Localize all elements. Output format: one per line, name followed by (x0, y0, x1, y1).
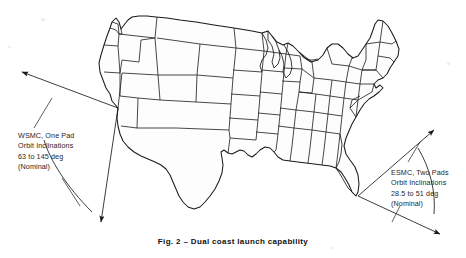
esmc-line-1: ESMC, Two Pads (391, 168, 449, 178)
wsmc-line-3: 63 to 145 deg (18, 152, 74, 162)
us-map-with-launch-wedges (0, 0, 466, 258)
figure-caption: Fig. 2 – Dual coast launch capability (0, 237, 466, 246)
esmc-annotation: ESMC, Two Pads Orbit Inclinations 28.5 t… (391, 168, 449, 210)
wsmc-line-2: Orbit Inclinations (18, 141, 74, 151)
wsmc-line-1: WSMC, One Pad (18, 131, 74, 141)
esmc-line-4: (Nominal) (391, 199, 449, 209)
wsmc-annotation: WSMC, One Pad Orbit Inclinations 63 to 1… (18, 131, 74, 173)
wsmc-wedge-lower-ray (101, 108, 118, 222)
esmc-line-3: 28.5 to 51 deg (391, 189, 449, 199)
figure-dual-coast-launch-capability: WSMC, One Pad Orbit Inclinations 63 to 1… (0, 0, 466, 258)
map-land-mass (99, 16, 399, 209)
esmc-line-2: Orbit Inclinations (391, 178, 449, 188)
wsmc-line-4: (Nominal) (18, 162, 74, 172)
